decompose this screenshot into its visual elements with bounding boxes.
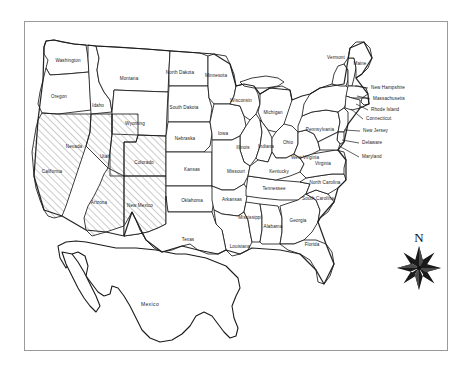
state-label-connecticut: Connecticut: [366, 116, 392, 121]
state-label-louisiana: Louisiana: [230, 244, 251, 249]
state-label-arkansas: Arkansas: [222, 197, 243, 202]
state-label-idaho: Idaho: [92, 103, 104, 108]
state-label-south-dakota: South Dakota: [169, 105, 198, 110]
state-label-mississippi: Mississippi: [238, 215, 261, 220]
compass-north-label: N: [414, 230, 424, 245]
compass-center-dot: [417, 266, 421, 270]
state-label-wisconsin: Wisconsin: [230, 98, 252, 103]
country-label-mexico: Mexico: [141, 301, 159, 307]
state-label-new-mexico: New Mexico: [127, 203, 153, 208]
state-michigan-up: [240, 76, 284, 88]
state-label-georgia: Georgia: [289, 218, 306, 223]
state-label-michigan: Michigan: [263, 110, 283, 115]
state-label-montana: Montana: [120, 76, 139, 81]
state-minnesota: [208, 54, 236, 104]
state-label-north-carolina: North Carolina: [309, 180, 340, 185]
us-map-svg: WashingtonOregonIdahoMontanaWyomingNorth…: [0, 0, 466, 377]
state-label-iowa: Iowa: [218, 131, 228, 136]
state-label-delaware: Delaware: [362, 140, 383, 145]
state-south-dakota: [168, 86, 212, 122]
state-oregon: [38, 68, 91, 114]
state-label-nevada: Nevada: [66, 144, 83, 149]
state-label-west-virginia: West Virginia: [291, 155, 320, 160]
state-label-illinois: Illinois: [236, 145, 250, 150]
state-label-virginia: Virginia: [315, 161, 331, 166]
state-label-new-hampshire: New Hampshire: [371, 85, 405, 90]
mexico-outline: [58, 241, 240, 342]
state-label-maryland: Maryland: [362, 154, 382, 159]
state-label-north-dakota: North Dakota: [166, 70, 195, 75]
state-label-texas: Texas: [182, 237, 195, 242]
state-label-tennessee: Tennessee: [262, 186, 285, 191]
state-label-rhode-island: Rhode Island: [371, 107, 400, 112]
state-label-wyoming: Wyoming: [125, 121, 145, 126]
state-label-oregon: Oregon: [51, 94, 67, 99]
state-label-south-carolina: South Carolina: [302, 196, 334, 201]
compass-rose: N: [397, 230, 441, 290]
state-label-kentucky: Kentucky: [269, 169, 289, 174]
state-label-indiana: Indiana: [258, 144, 274, 149]
state-label-california: California: [42, 169, 63, 174]
state-label-nebraska: Nebraska: [175, 136, 196, 141]
state-label-florida: Florida: [305, 242, 320, 247]
state-label-colorado: Colorado: [134, 160, 154, 165]
state-label-missouri: Missouri: [227, 169, 245, 174]
country-labels: Mexico: [141, 301, 159, 307]
state-label-vermont: Vermont: [327, 55, 345, 60]
state-north-dakota: [169, 51, 208, 86]
state-label-ohio: Ohio: [283, 140, 293, 145]
state-label-alabama: Alabama: [264, 224, 283, 229]
state-label-new-jersey: New Jersey: [363, 128, 389, 133]
state-california: [32, 113, 91, 218]
state-label-minnesota: Minnesota: [205, 73, 227, 78]
state-label-washington: Washington: [55, 58, 80, 63]
state-label-utah: Utah: [100, 154, 110, 159]
state-label-massachusetts: Massachusetts: [373, 96, 406, 101]
state-label-kansas: Kansas: [184, 167, 201, 172]
state-label-maine: Maine: [353, 61, 366, 66]
state-label-pennsylvania: Pennsylvania: [306, 127, 335, 132]
map-figure: WashingtonOregonIdahoMontanaWyomingNorth…: [0, 0, 466, 377]
state-label-arizona: Arizona: [91, 200, 108, 205]
state-label-oklahoma: Oklahoma: [181, 198, 203, 203]
